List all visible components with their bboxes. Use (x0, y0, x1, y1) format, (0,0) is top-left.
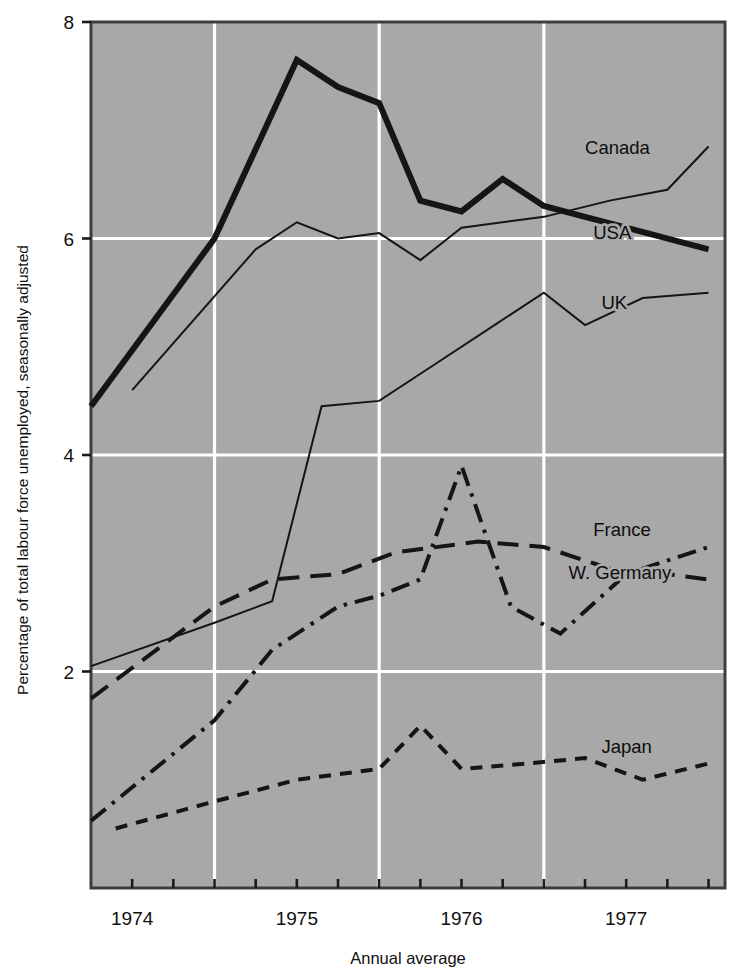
chart-figure: 2468 1974197519761977 CanadaCanadaUSAUSA… (0, 0, 752, 974)
x-tick-label: 1976 (440, 908, 482, 929)
unemployment-line-chart: 2468 1974197519761977 CanadaCanadaUSAUSA… (0, 0, 752, 974)
x-tick-label: 1975 (276, 908, 318, 929)
x-tick-label: 1974 (111, 908, 154, 929)
y-axis-title: Percentage of total labour force unemplo… (14, 245, 31, 695)
series-label-japan: Japan (601, 736, 651, 757)
series-label-france: France (593, 519, 651, 540)
x-tick-label: 1977 (605, 908, 647, 929)
series-label-canada: Canada (585, 137, 651, 158)
series-label-usa: USA (593, 222, 632, 243)
y-tick-label: 6 (63, 229, 74, 250)
series-label-uk: UK (601, 292, 627, 313)
x-axis-title: Annual average (350, 949, 466, 967)
series-label-w-germany: W. Germany (569, 562, 673, 583)
y-tick-label: 8 (63, 12, 74, 33)
y-tick-label: 4 (63, 445, 74, 466)
y-tick-label: 2 (63, 662, 74, 683)
